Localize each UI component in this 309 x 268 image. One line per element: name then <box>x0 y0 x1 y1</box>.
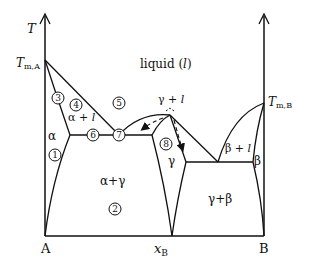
phase-diagram: T Tm,A Tm,B A B xB liquid (l) α α + l γ … <box>0 0 309 268</box>
y-axis-label: T <box>27 21 37 36</box>
alpha-label: α <box>48 129 56 143</box>
solidus-gamma-left <box>152 115 170 135</box>
svg-text:5: 5 <box>116 98 122 108</box>
gamma-label: γ <box>168 154 175 168</box>
svg-text:3: 3 <box>55 93 61 103</box>
svg-text:8: 8 <box>163 139 169 149</box>
marker-1: 1 <box>49 149 61 161</box>
xb-label: xB <box>154 241 168 258</box>
alpha-plus-l-label: α + l <box>68 111 96 124</box>
solvus-gamma-right <box>172 162 186 236</box>
tm-a-label: Tm,A <box>16 56 40 71</box>
svg-text:4: 4 <box>73 100 79 110</box>
svg-text:7: 7 <box>116 130 122 140</box>
marker-6: 6 <box>87 129 99 141</box>
liquidus-gamma-right <box>170 115 218 162</box>
tm-b-label: Tm,B <box>268 95 292 110</box>
marker-5: 5 <box>113 97 125 109</box>
solvus-gamma-left <box>152 135 172 236</box>
svg-text:6: 6 <box>90 130 96 140</box>
alpha-gamma-label: α+γ <box>100 174 125 188</box>
marker-8: 8 <box>160 138 172 150</box>
marker-4: 4 <box>70 99 82 111</box>
marker-3: 3 <box>52 92 64 104</box>
b-label: B <box>259 241 269 256</box>
marker-7: 7 <box>113 129 125 141</box>
svg-text:2: 2 <box>112 204 118 214</box>
gamma-beta-label: γ+β <box>208 192 232 206</box>
beta-label: β <box>254 154 261 168</box>
svg-text:1: 1 <box>52 150 58 160</box>
liquid-label: liquid (l) <box>140 57 192 71</box>
gamma-plus-l-label: γ + l <box>158 93 185 106</box>
marker-2: 2 <box>109 203 121 215</box>
dashed-arrow-down-icon <box>174 120 182 148</box>
a-label: A <box>40 241 51 256</box>
solvus-beta <box>253 162 264 236</box>
beta-plus-l-label: β + l <box>225 142 252 155</box>
dashed-peak <box>166 108 174 111</box>
